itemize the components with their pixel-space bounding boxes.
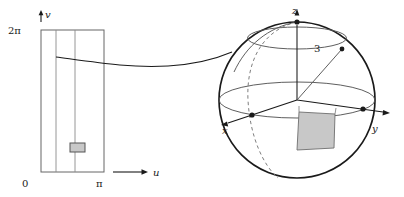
axis-z-label: z — [291, 5, 298, 16]
x-axis — [221, 100, 297, 127]
x-axis-intercept-dot — [249, 112, 254, 117]
u-axis-arrow — [113, 169, 148, 174]
axis-v-label: v — [45, 9, 51, 20]
patch-edge-right — [335, 108, 336, 114]
axis-x-label: x — [222, 125, 228, 136]
figure-canvas: v u 2π 0 π — [0, 0, 404, 197]
sphere-panel: z y x 3 — [219, 5, 390, 178]
v-max-label: 2π — [8, 25, 21, 36]
y-axis-intercept-dot — [360, 106, 365, 111]
v-axis-arrow — [39, 10, 44, 22]
axis-y-label: y — [371, 123, 378, 134]
diagram-svg: v u 2π 0 π — [0, 0, 404, 197]
axis-u-label: u — [153, 167, 159, 178]
mapping-curve — [56, 52, 232, 66]
domain-panel: v u 2π 0 π — [8, 9, 159, 189]
meridian-dashed — [248, 22, 297, 178]
origin-label: 0 — [22, 178, 28, 189]
domain-patch — [70, 143, 85, 152]
radius-endpoint-dot — [340, 47, 345, 52]
sphere-patch — [297, 112, 335, 150]
z-axis-pole-dot — [294, 19, 299, 24]
u-max-label: π — [96, 178, 103, 189]
radius-label: 3 — [314, 43, 320, 54]
radius-line — [297, 47, 344, 100]
z-axis — [294, 9, 299, 100]
